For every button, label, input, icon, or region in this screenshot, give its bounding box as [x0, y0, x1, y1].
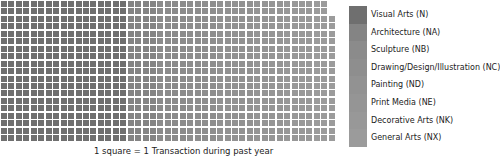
waffle-square — [46, 128, 52, 134]
waffle-square — [83, 113, 89, 119]
waffle-square — [292, 38, 298, 44]
legend-item-general-arts: General Arts (NX) — [349, 129, 486, 147]
waffle-square — [61, 31, 67, 37]
waffle-square — [23, 135, 29, 141]
waffle-square — [314, 53, 320, 59]
legend-swatch — [349, 76, 367, 94]
waffle-square — [269, 128, 275, 134]
waffle-square — [262, 98, 268, 104]
waffle-square — [31, 105, 37, 111]
waffle-square — [232, 83, 238, 89]
waffle-square — [321, 38, 327, 44]
waffle-square — [135, 105, 141, 111]
waffle-square — [61, 120, 67, 126]
waffle-square — [31, 120, 37, 126]
waffle-square — [277, 83, 283, 89]
waffle-square — [16, 38, 22, 44]
waffle-square — [135, 83, 141, 89]
waffle-square — [143, 1, 149, 7]
waffle-square — [90, 53, 96, 59]
waffle-square — [150, 98, 156, 104]
waffle-square — [83, 120, 89, 126]
waffle-square — [292, 68, 298, 74]
waffle-square — [46, 120, 52, 126]
waffle-square — [53, 120, 59, 126]
waffle-square — [90, 128, 96, 134]
waffle-square — [105, 61, 111, 67]
waffle-square — [180, 135, 186, 141]
waffle-square — [165, 16, 171, 22]
waffle-square — [292, 53, 298, 59]
waffle-square — [143, 120, 149, 126]
waffle-square — [299, 68, 305, 74]
waffle-square — [180, 23, 186, 29]
waffle-square — [172, 98, 178, 104]
waffle-square — [90, 135, 96, 141]
waffle-square — [53, 31, 59, 37]
waffle-square — [284, 120, 290, 126]
waffle-square — [31, 68, 37, 74]
waffle-square — [98, 31, 104, 37]
waffle-square — [157, 68, 163, 74]
waffle-square — [299, 76, 305, 82]
waffle-square — [83, 68, 89, 74]
legend-item-visual-arts: Visual Arts (N) — [349, 6, 486, 24]
waffle-square — [195, 46, 201, 52]
waffle-square — [150, 135, 156, 141]
waffle-square — [217, 83, 223, 89]
waffle-square — [210, 46, 216, 52]
waffle-square — [306, 61, 312, 67]
waffle-square — [172, 8, 178, 14]
waffle-square — [314, 135, 320, 141]
waffle-square — [232, 38, 238, 44]
waffle-square — [269, 31, 275, 37]
waffle-square — [83, 128, 89, 134]
waffle-square — [299, 90, 305, 96]
waffle-square — [247, 23, 253, 29]
waffle-square — [306, 90, 312, 96]
waffle-square — [225, 68, 231, 74]
waffle-square — [210, 98, 216, 104]
waffle-square — [98, 128, 104, 134]
waffle-square — [210, 105, 216, 111]
waffle-square — [314, 16, 320, 22]
waffle-square — [23, 23, 29, 29]
waffle-square — [254, 120, 260, 126]
waffle-square — [157, 23, 163, 29]
waffle-square — [180, 128, 186, 134]
waffle-square — [120, 120, 126, 126]
waffle-square — [128, 105, 134, 111]
waffle-square — [284, 1, 290, 7]
waffle-square — [105, 68, 111, 74]
waffle-square — [46, 23, 52, 29]
waffle-square — [306, 98, 312, 104]
waffle-square — [314, 23, 320, 29]
waffle-square — [120, 128, 126, 134]
waffle-square — [262, 113, 268, 119]
waffle-square — [210, 61, 216, 67]
waffle-square — [113, 61, 119, 67]
waffle-square — [239, 68, 245, 74]
waffle-square — [269, 105, 275, 111]
waffle-square — [269, 83, 275, 89]
waffle-square — [31, 90, 37, 96]
waffle-square — [68, 46, 74, 52]
waffle-square — [306, 1, 312, 7]
waffle-square — [61, 61, 67, 67]
waffle-square — [1, 68, 7, 74]
waffle-square — [172, 68, 178, 74]
waffle-square — [306, 38, 312, 44]
waffle-square — [180, 76, 186, 82]
waffle-square — [217, 31, 223, 37]
waffle-square — [187, 120, 193, 126]
waffle-square — [187, 53, 193, 59]
waffle-square — [269, 46, 275, 52]
waffle-square — [269, 68, 275, 74]
waffle-square — [8, 113, 14, 119]
waffle-square — [23, 61, 29, 67]
waffle-square — [247, 68, 253, 74]
waffle-square — [314, 105, 320, 111]
waffle-square — [120, 113, 126, 119]
waffle-square — [292, 98, 298, 104]
waffle-square — [277, 98, 283, 104]
